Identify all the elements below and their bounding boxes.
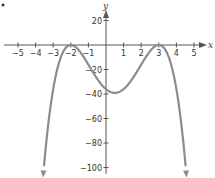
x-tick-label: 3 bbox=[156, 49, 161, 58]
x-tick-label: 5 bbox=[191, 49, 196, 58]
y-axis-arrow-icon bbox=[103, 10, 109, 18]
x-tick-label: −4 bbox=[30, 49, 42, 58]
item-bullet bbox=[2, 4, 5, 7]
x-tick-label: −2 bbox=[65, 49, 77, 58]
arrow-head-icon bbox=[183, 170, 189, 177]
y-tick-label: −100 bbox=[80, 164, 102, 173]
y-axis-label: y bbox=[102, 1, 109, 11]
x-axis-arrow-icon bbox=[199, 42, 207, 48]
curve-arrow-heads bbox=[41, 170, 189, 177]
y-tick-label: −80 bbox=[85, 139, 102, 148]
polynomial-graph: −5−4−3−2−11234520−20−40−60−80−100 x y bbox=[0, 0, 215, 178]
y-tick-label: −60 bbox=[85, 115, 102, 124]
x-tick-label: 4 bbox=[174, 49, 179, 58]
x-tick-label: 2 bbox=[139, 49, 144, 58]
y-tick-label: 20 bbox=[92, 17, 102, 26]
x-axis-label: x bbox=[208, 40, 213, 50]
x-tick-label: −5 bbox=[12, 49, 24, 58]
function-curve bbox=[44, 45, 186, 165]
x-tick-label: 1 bbox=[121, 49, 126, 58]
x-tick-label: −3 bbox=[47, 49, 59, 58]
y-tick-label: −40 bbox=[85, 90, 102, 99]
arrow-head-icon bbox=[41, 170, 47, 177]
